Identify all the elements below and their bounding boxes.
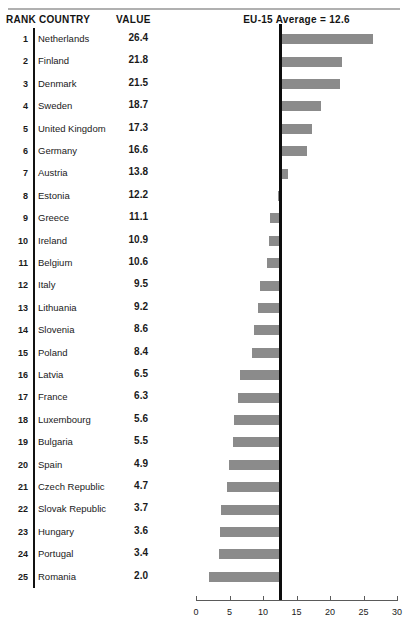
table-row: 2Finland21.8 bbox=[0, 50, 408, 72]
row-value: 9.5 bbox=[110, 278, 148, 290]
row-country: Spain bbox=[38, 459, 62, 471]
row-rank: 20 bbox=[6, 459, 28, 471]
table-row: 21Czech Republic4.7 bbox=[0, 476, 408, 498]
row-value: 17.3 bbox=[110, 122, 148, 134]
chart-page: RANK COUNTRY VALUE EU-15 Average = 12.6 … bbox=[0, 0, 408, 627]
row-value: 6.3 bbox=[110, 390, 148, 402]
x-axis-tick bbox=[397, 596, 398, 601]
table-row: 11Belgium10.6 bbox=[0, 252, 408, 274]
row-rank: 10 bbox=[6, 235, 28, 247]
row-rank: 9 bbox=[6, 212, 28, 224]
row-value: 16.6 bbox=[110, 144, 148, 156]
table-row: 7Austria13.8 bbox=[0, 162, 408, 184]
table-row: 15Poland8.4 bbox=[0, 342, 408, 364]
x-axis-line bbox=[196, 600, 397, 601]
row-value: 21.8 bbox=[110, 54, 148, 66]
row-rank: 2 bbox=[6, 55, 28, 67]
top-divider-rule bbox=[8, 8, 400, 10]
table-row: 10Ireland10.9 bbox=[0, 230, 408, 252]
row-country: Latvia bbox=[38, 369, 63, 381]
row-rank: 5 bbox=[6, 123, 28, 135]
row-value: 5.5 bbox=[110, 435, 148, 447]
table-row: 9Greece11.1 bbox=[0, 207, 408, 229]
row-value: 21.5 bbox=[110, 77, 148, 89]
row-rank: 6 bbox=[6, 145, 28, 157]
row-value: 6.5 bbox=[110, 368, 148, 380]
row-country: Poland bbox=[38, 347, 68, 359]
row-country: United Kingdom bbox=[38, 123, 106, 135]
row-country: Italy bbox=[38, 279, 55, 291]
row-value: 4.7 bbox=[110, 480, 148, 492]
row-country: Belgium bbox=[38, 257, 72, 269]
table-row: 22Slovak Republic3.7 bbox=[0, 498, 408, 520]
table-row: 13Lithuania9.2 bbox=[0, 297, 408, 319]
row-value: 18.7 bbox=[110, 99, 148, 111]
x-axis-tick bbox=[196, 596, 197, 601]
table-row: 17France6.3 bbox=[0, 386, 408, 408]
row-rank: 21 bbox=[6, 481, 28, 493]
table-row: 16Latvia6.5 bbox=[0, 364, 408, 386]
row-rank: 4 bbox=[6, 100, 28, 112]
row-country: Slovenia bbox=[38, 324, 74, 336]
x-axis-tick-label: 20 bbox=[325, 607, 335, 617]
row-country: Estonia bbox=[38, 190, 70, 202]
chart-title: EU-15 Average = 12.6 bbox=[196, 14, 397, 25]
table-row: 23Hungary3.6 bbox=[0, 521, 408, 543]
row-country: Denmark bbox=[38, 78, 77, 90]
row-country: Austria bbox=[38, 167, 68, 179]
table-row: 8Estonia12.2 bbox=[0, 185, 408, 207]
row-country: Sweden bbox=[38, 100, 72, 112]
row-rank: 22 bbox=[6, 503, 28, 515]
row-value: 5.6 bbox=[110, 413, 148, 425]
row-rank: 18 bbox=[6, 414, 28, 426]
table-row: 3Denmark21.5 bbox=[0, 73, 408, 95]
table-row: 1Netherlands26.4 bbox=[0, 28, 408, 50]
row-value: 3.4 bbox=[110, 547, 148, 559]
table-row: 6Germany16.6 bbox=[0, 140, 408, 162]
row-country: Romania bbox=[38, 571, 76, 583]
row-rank: 17 bbox=[6, 391, 28, 403]
x-axis-tick bbox=[297, 596, 298, 601]
row-value: 3.6 bbox=[110, 525, 148, 537]
row-rank: 11 bbox=[6, 257, 28, 269]
table-row: 25Romania2.0 bbox=[0, 566, 408, 588]
row-value: 10.6 bbox=[110, 256, 148, 268]
column-header-rank: RANK bbox=[6, 14, 36, 25]
row-country: Portugal bbox=[38, 548, 73, 560]
row-rank: 13 bbox=[6, 302, 28, 314]
row-country: Bulgaria bbox=[38, 436, 73, 448]
row-rank: 23 bbox=[6, 526, 28, 538]
row-country: France bbox=[38, 391, 68, 403]
row-rank: 19 bbox=[6, 436, 28, 448]
row-value: 12.2 bbox=[110, 189, 148, 201]
row-rank: 8 bbox=[6, 190, 28, 202]
x-axis-tick-label: 5 bbox=[227, 607, 232, 617]
x-axis-tick-label: 0 bbox=[193, 607, 198, 617]
row-value: 26.4 bbox=[110, 32, 148, 44]
row-value: 3.7 bbox=[110, 502, 148, 514]
row-country: Greece bbox=[38, 212, 69, 224]
row-country: Hungary bbox=[38, 526, 74, 538]
row-country: Lithuania bbox=[38, 302, 77, 314]
table-row: 18Luxembourg5.6 bbox=[0, 409, 408, 431]
table-row: 24Portugal3.4 bbox=[0, 543, 408, 565]
column-header-country: COUNTRY bbox=[39, 14, 90, 25]
table-row: 5United Kingdom17.3 bbox=[0, 118, 408, 140]
x-axis-tick-label: 10 bbox=[258, 607, 268, 617]
row-value: 11.1 bbox=[110, 211, 148, 223]
row-value: 8.6 bbox=[110, 323, 148, 335]
x-axis-tick bbox=[230, 596, 231, 601]
row-country: Czech Republic bbox=[38, 481, 105, 493]
row-rank: 14 bbox=[6, 324, 28, 336]
row-rank: 15 bbox=[6, 347, 28, 359]
row-rank: 12 bbox=[6, 279, 28, 291]
row-country: Ireland bbox=[38, 235, 67, 247]
column-header-value: VALUE bbox=[116, 14, 151, 25]
row-rank: 1 bbox=[6, 33, 28, 45]
x-axis-tick bbox=[330, 596, 331, 601]
x-axis-tick-label: 25 bbox=[358, 607, 368, 617]
row-value: 10.9 bbox=[110, 234, 148, 246]
row-value: 2.0 bbox=[110, 570, 148, 582]
table-row: 12Italy9.5 bbox=[0, 274, 408, 296]
row-rank: 25 bbox=[6, 571, 28, 583]
